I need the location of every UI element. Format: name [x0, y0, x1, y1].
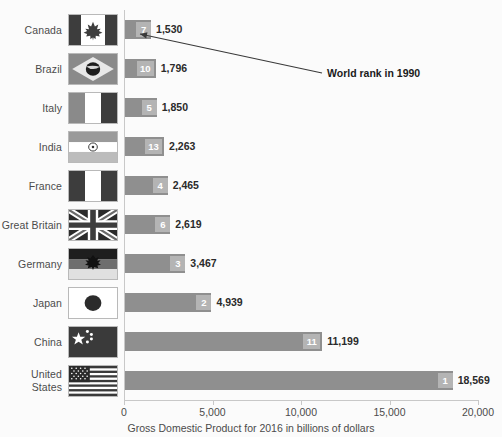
x-tick — [213, 400, 214, 405]
flag-brazil-icon — [68, 53, 118, 85]
table-row: Italy51,850 — [0, 88, 502, 127]
y-axis-line — [124, 10, 125, 400]
value-label: 2,619 — [175, 215, 201, 234]
value-label: 1,530 — [156, 20, 182, 39]
value-label: 1,850 — [162, 98, 188, 117]
country-label: India — [0, 141, 62, 153]
x-tick-label: 10,000 — [285, 406, 317, 418]
country-label: Italy — [0, 102, 62, 114]
value-label: 11,199 — [327, 332, 359, 351]
x-tick — [390, 400, 391, 405]
table-row: Japan24,939 — [0, 283, 502, 322]
country-label: Japan — [0, 297, 62, 309]
country-label: Brazil — [0, 63, 62, 75]
country-label: Canada — [0, 24, 62, 36]
country-label: UnitedStates — [0, 368, 62, 393]
x-tick-label: 0 — [121, 406, 127, 418]
table-row: Germany33,467 — [0, 244, 502, 283]
flag-canada-icon — [68, 14, 118, 46]
rank-badge: 6 — [155, 217, 170, 232]
table-row: France42,465 — [0, 166, 502, 205]
table-row: UnitedStates118,569 — [0, 361, 502, 400]
x-tick — [301, 400, 302, 405]
flag-india-icon — [68, 131, 118, 163]
flag-italy-icon — [68, 92, 118, 124]
table-row: India132,263 — [0, 127, 502, 166]
table-row: Great Britain62,619 — [0, 205, 502, 244]
x-axis-title: Gross Domestic Product for 2016 in billi… — [0, 422, 502, 434]
x-tick — [124, 400, 125, 405]
table-row: Canada71,530 — [0, 10, 502, 49]
value-label: 2,263 — [169, 137, 195, 156]
rank-badge: 13 — [145, 139, 162, 154]
flag-germany-icon — [68, 248, 118, 280]
flag-great-britain-icon — [68, 209, 118, 241]
gdp-bar-chart: Canada71,530Brazil101,796Italy51,850Indi… — [0, 0, 502, 437]
bar — [124, 332, 322, 351]
country-label: France — [0, 180, 62, 192]
x-tick — [478, 400, 479, 405]
value-label: 4,939 — [216, 293, 242, 312]
country-label: China — [0, 336, 62, 348]
value-label: 1,796 — [161, 59, 187, 78]
bar — [124, 371, 453, 390]
annotation-label: World rank in 1990 — [327, 67, 420, 79]
x-tick-label: 20,000 — [462, 406, 494, 418]
x-tick-label: 5,000 — [199, 406, 225, 418]
rank-badge: 2 — [196, 295, 211, 310]
flag-france-icon — [68, 170, 118, 202]
rank-badge: 3 — [170, 256, 185, 271]
table-row: Brazil101,796 — [0, 49, 502, 88]
value-label: 3,467 — [190, 254, 216, 273]
flag-china-icon — [68, 326, 118, 358]
country-label: Great Britain — [0, 219, 62, 231]
flag-japan-icon — [68, 287, 118, 319]
rank-badge: 1 — [438, 373, 453, 388]
rank-badge: 10 — [137, 61, 154, 76]
rank-badge: 4 — [153, 178, 168, 193]
rank-badge: 11 — [303, 334, 320, 349]
value-label: 2,465 — [173, 176, 199, 195]
value-label: 18,569 — [458, 371, 490, 390]
flag-united-states-icon — [68, 365, 118, 397]
rank-badge: 5 — [142, 100, 157, 115]
country-label: Germany — [0, 258, 62, 270]
table-row: China1111,199 — [0, 322, 502, 361]
x-tick-label: 15,000 — [373, 406, 405, 418]
rank-badge: 7 — [136, 22, 151, 37]
